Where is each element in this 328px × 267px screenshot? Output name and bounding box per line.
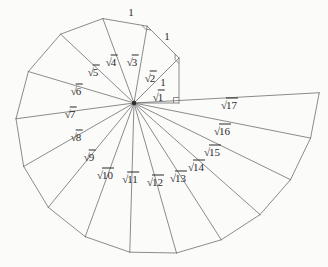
outer-edges-group [16, 19, 319, 253]
radicand-17: 17 [226, 98, 238, 111]
label-unit-3: 1 [128, 7, 134, 18]
radicand-6: 6 [76, 84, 83, 97]
label-sqrt-13: √13 [169, 173, 187, 184]
radicand-3: 3 [132, 55, 139, 68]
spiral-of-theodorus-figure: √1√2√3√4√5√6√7√8√9√10√11√12√13√14√15√16√… [0, 0, 328, 267]
radicand-10: 10 [102, 168, 114, 181]
origin-point [132, 101, 136, 105]
unit-edge-7 [16, 119, 24, 167]
label-sqrt-9: √9 [83, 152, 96, 163]
radicand-16: 16 [219, 124, 231, 137]
unit-edge-11 [130, 252, 177, 253]
label-sqrt-4: √4 [105, 57, 118, 68]
label-sqrt-14: √14 [187, 162, 205, 173]
unit-edge-16 [311, 93, 320, 138]
unit-edge-13 [221, 215, 260, 240]
label-unit-2: 1 [164, 31, 170, 42]
unit-edge-9 [48, 207, 85, 236]
label-sqrt-11: √11 [121, 174, 139, 185]
unit-edge-2 [147, 26, 179, 58]
radicand-9: 9 [89, 150, 96, 163]
radicand-15: 15 [209, 145, 221, 158]
unit-edge-8 [24, 166, 49, 207]
label-sqrt-17: √17 [220, 100, 238, 111]
unit-edge-4 [61, 19, 103, 35]
radicand-4: 4 [111, 55, 118, 68]
unit-edge-6 [16, 72, 28, 119]
radicand-2: 2 [150, 71, 157, 84]
label-sqrt-3: √3 [126, 57, 139, 68]
radicand-11: 11 [127, 172, 139, 185]
radicand-5: 5 [93, 65, 100, 78]
hypotenuse-spoke-15 [134, 103, 291, 180]
label-sqrt-10: √10 [96, 170, 114, 181]
radicand-8: 8 [76, 130, 83, 143]
label-sqrt-8: √8 [70, 132, 83, 143]
label-sqrt-15: √15 [203, 147, 221, 158]
unit-edge-12 [176, 240, 221, 253]
radicand-1: 1 [158, 90, 165, 103]
radicand-7: 7 [70, 107, 77, 120]
unit-edge-15 [291, 138, 311, 180]
radicand-13: 13 [175, 171, 187, 184]
label-sqrt-12: √12 [146, 177, 164, 188]
label-sqrt-16: √16 [213, 126, 231, 137]
unit-edge-3 [103, 19, 147, 27]
label-unit-1: 1 [160, 77, 166, 88]
unit-edge-10 [85, 237, 130, 253]
label-sqrt-1: √1 [152, 92, 165, 103]
unit-edge-5 [28, 34, 60, 71]
unit-edge-14 [260, 180, 290, 215]
label-sqrt-7: √7 [64, 109, 77, 120]
label-sqrt-6: √6 [70, 86, 83, 97]
radicand-12: 12 [152, 175, 164, 188]
radicand-14: 14 [193, 160, 205, 173]
label-sqrt-2: √2 [144, 73, 157, 84]
label-sqrt-5: √5 [87, 67, 100, 78]
